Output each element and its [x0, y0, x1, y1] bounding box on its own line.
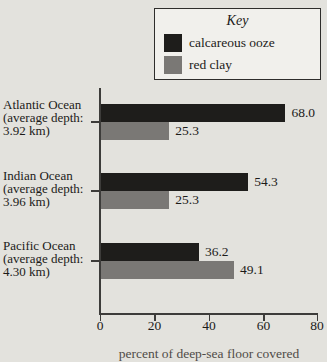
value-label-indian-ooze: 54.3 [254, 173, 278, 191]
category-label-line: 4.30 km) [3, 265, 99, 278]
x-axis-label: percent of deep-sea floor covered [100, 346, 318, 362]
x-tick-label: 0 [83, 318, 117, 334]
category-label-atlantic: Atlantic Ocean (average depth: 3.92 km) [3, 98, 99, 137]
legend-entry-label: calcareous ooze [189, 34, 275, 52]
category-label-line: (average depth: [3, 182, 99, 195]
category-label-line: Indian Ocean [3, 169, 99, 182]
x-tick-label: 80 [300, 318, 327, 334]
legend-title: Key [155, 13, 320, 29]
red-clay-swatch [164, 56, 182, 74]
value-label-atlantic-ooze: 68.0 [291, 104, 315, 122]
value-label-pacific-clay: 49.1 [240, 261, 264, 279]
bar-atlantic-calcareous-ooze [101, 104, 286, 122]
x-tick-label: 40 [192, 318, 226, 334]
bar-indian-red-clay [101, 191, 170, 209]
category-label-line: 3.96 km) [3, 195, 99, 208]
bar-pacific-red-clay [101, 261, 235, 279]
legend-entry-calcareous-ooze: calcareous ooze [164, 34, 275, 52]
x-tick-label: 20 [138, 318, 172, 334]
category-label-indian: Indian Ocean (average depth: 3.96 km) [3, 169, 99, 208]
value-label-pacific-ooze: 36.2 [205, 243, 229, 261]
category-label-pacific: Pacific Ocean (average depth: 4.30 km) [3, 239, 99, 278]
x-tick-label: 60 [247, 318, 281, 334]
bar-indian-calcareous-ooze [101, 173, 249, 191]
legend: Key calcareous ooze red clay [154, 8, 321, 80]
value-label-atlantic-clay: 25.3 [175, 122, 199, 140]
bar-pacific-calcareous-ooze [101, 243, 199, 261]
calcareous-ooze-swatch [164, 34, 182, 52]
category-label-line: 3.92 km) [3, 124, 99, 137]
bar-atlantic-red-clay [101, 122, 170, 140]
value-label-indian-clay: 25.3 [175, 191, 199, 209]
legend-entry-label: red clay [189, 56, 232, 74]
legend-entry-red-clay: red clay [164, 56, 232, 74]
